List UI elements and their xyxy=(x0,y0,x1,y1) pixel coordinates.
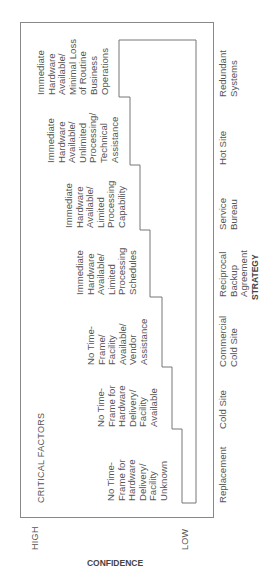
factor-1: No Time- Frame for Hardware Delivery/ Fa… xyxy=(96,385,160,427)
factor-2: No Time- Frame/ Facility Available/ Vend… xyxy=(86,319,150,365)
factor-0: No Time- Frame for Hardware Delivery/ Fa… xyxy=(106,459,170,501)
critical-factors-title: CRITICAL FACTORS xyxy=(36,413,46,503)
strategy-1: Cold Site xyxy=(218,390,229,429)
x-axis-label: STRATEGY xyxy=(250,254,260,300)
factor-6: Immediate Hardware Available/ Minimal Lo… xyxy=(36,39,110,95)
strategy-5: Hot Site xyxy=(218,131,229,165)
y-axis-high: HIGH xyxy=(30,526,40,550)
strategy-2: Commercial Cold Site xyxy=(218,316,239,367)
y-axis-low: LOW xyxy=(180,529,190,550)
strategy-3: Reciprocal Backup Agreement xyxy=(218,250,250,297)
strategy-4: Service Bureau xyxy=(218,198,239,230)
diagram-canvas: CRITICAL FACTORS No Time- Frame for Hard… xyxy=(0,0,266,585)
factor-5: Immediate Hardware Available/ Unlimited … xyxy=(46,113,120,163)
y-axis-label: CONFIDENCE xyxy=(75,558,155,568)
factor-4: Immediate Hardware Available/ Limited Pr… xyxy=(64,181,128,228)
strategy-0: Replacement xyxy=(218,446,229,503)
factor-3: Immediate Hardware Available/ Limited Pr… xyxy=(75,248,139,295)
strategy-6: Redundant Systems xyxy=(218,50,239,97)
